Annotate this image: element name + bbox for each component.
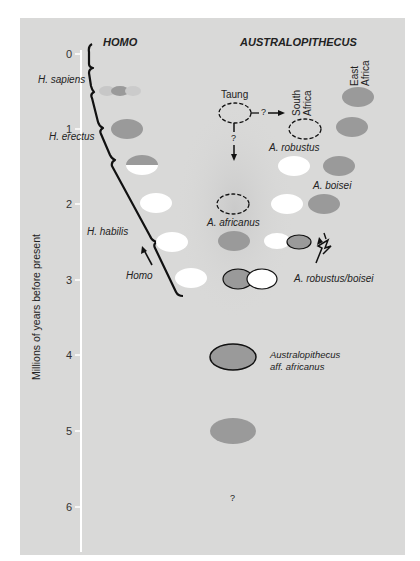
- header-australopithecus: AUSTRALOPITHECUS: [240, 37, 357, 48]
- fossil-h-sapiens-right: [125, 86, 141, 96]
- label-question-6ma: ?: [230, 494, 235, 503]
- label-east-africa: East Africa: [349, 56, 371, 86]
- tick-3: 3: [66, 274, 72, 286]
- fossil-east-africa-2: [336, 117, 368, 137]
- label-a-boisei: A. boisei: [313, 181, 351, 191]
- fossil-east-africa-1: [342, 87, 374, 107]
- label-h-habilis: H. habilis: [87, 227, 128, 237]
- fossil-homo-white-2: [156, 232, 188, 252]
- fossil-homo-white-1: [140, 193, 172, 213]
- tick-2: 2: [66, 198, 72, 210]
- label-homo: Homo: [126, 271, 153, 281]
- label-aff-africanus-2: aff. africanus: [270, 362, 324, 372]
- fossil-robustus-boisei-outlined: [287, 235, 311, 249]
- header-homo: HOMO: [103, 37, 137, 48]
- axis-label: Millions of years before present: [31, 234, 42, 380]
- label-h-erectus: H. erectus: [49, 132, 95, 142]
- fossil-a-boisei-grey: [308, 194, 340, 214]
- east-africa-text: East Africa: [349, 60, 371, 86]
- label-a-robustus: A. robustus: [269, 143, 320, 153]
- fossil-5ma: [210, 418, 256, 444]
- label-aff-africanus-1: Australopithecus: [270, 350, 340, 360]
- label-h-sapiens: H. sapiens: [38, 75, 85, 85]
- tick-6: 6: [66, 501, 72, 513]
- fossil-a-robustus-white: [278, 156, 310, 176]
- tick-4: 4: [66, 349, 72, 361]
- arrow-question-right: ?: [261, 108, 266, 117]
- fossil-h-erectus: [111, 119, 143, 139]
- fossil-homo-half: [126, 155, 158, 175]
- south-africa-text: South Africa: [291, 90, 313, 116]
- fossil-homo-white-3: [175, 268, 207, 288]
- arrow-question-down: ?: [231, 134, 236, 143]
- label-south-africa: South Africa: [291, 76, 313, 116]
- fossil-pair-white: [247, 269, 277, 289]
- fossil-south-africa-dashed: [289, 119, 321, 139]
- fossil-a-boisei-white: [271, 194, 303, 214]
- homo-arrow: [141, 246, 152, 265]
- label-a-africanus: A. africanus: [207, 218, 260, 228]
- fossil-east-africa-3: [323, 156, 355, 176]
- fossil-aff-africanus: [210, 344, 256, 370]
- fossil-robustus-white-small: [264, 233, 290, 249]
- tick-5: 5: [66, 425, 72, 437]
- time-axis: [75, 50, 81, 552]
- tick-0: 0: [66, 48, 72, 60]
- fossil-a-africanus: [218, 231, 250, 251]
- label-taung: Taung: [221, 90, 248, 100]
- label-a-robustus-boisei: A. robustus/boisei: [294, 274, 374, 284]
